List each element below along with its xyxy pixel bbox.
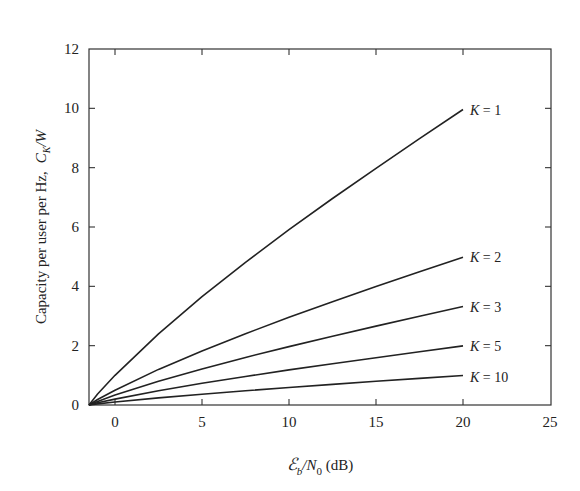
curve-label-k-2: K = 2 (469, 250, 501, 265)
x-tick-label: 0 (111, 414, 119, 430)
y-tick-label: 12 (64, 41, 79, 57)
chart-canvas: 0510152025 024681012 K = 1K = 2K = 3K = … (0, 0, 580, 491)
y-tick-label: 8 (72, 160, 80, 176)
curve-k-2 (89, 257, 463, 405)
capacity-curves (89, 110, 463, 406)
curve-label-k-5: K = 5 (469, 339, 501, 354)
curve-labels: K = 1K = 2K = 3K = 5K = 10 (469, 103, 508, 386)
y-tick-label: 0 (72, 397, 80, 413)
y-tick-label: 10 (64, 100, 79, 116)
curve-k-3 (89, 307, 463, 406)
x-tick-label: 15 (369, 414, 384, 430)
x-tick-label: 10 (282, 414, 297, 430)
y-tick-label: 2 (72, 338, 80, 354)
x-axis-label: ℰb/N0 (dB) (287, 455, 353, 477)
curve-label-k-1: K = 1 (469, 103, 501, 118)
curve-k-10 (89, 376, 463, 406)
y-tick-label: 4 (72, 278, 80, 294)
curve-label-k-10: K = 10 (469, 370, 508, 385)
x-tick-label: 25 (543, 414, 558, 430)
y-tick-label: 6 (72, 219, 80, 235)
y-axis-label: Capacity per user per Hz,CK/W (33, 128, 52, 324)
y-axis-ticks: 024681012 (64, 41, 551, 413)
x-tick-label: 20 (456, 414, 471, 430)
curve-label-k-3: K = 3 (469, 300, 501, 315)
x-tick-label: 5 (198, 414, 206, 430)
curve-k-1 (89, 110, 463, 406)
